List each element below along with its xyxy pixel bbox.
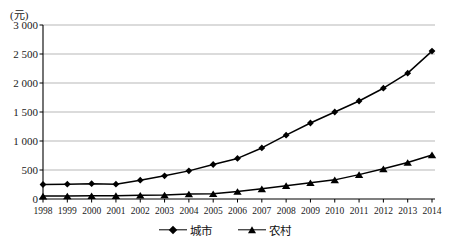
data-point-marker (258, 145, 265, 152)
data-point-marker (283, 132, 290, 139)
data-point-marker (137, 177, 144, 184)
x-tick-label: 2014 (423, 206, 442, 216)
series-line-1 (43, 51, 432, 184)
triangle-marker-icon (238, 224, 266, 236)
y-tick-label: 1 500 (2, 106, 38, 118)
legend-item-2[interactable]: 农村 (238, 222, 291, 238)
data-point-marker (428, 152, 436, 159)
x-tick-label: 1998 (34, 206, 53, 216)
x-tick-label: 2002 (131, 206, 150, 216)
data-point-marker (88, 180, 95, 187)
legend-label: 城市 (190, 222, 212, 238)
y-tick-label: 2 000 (2, 77, 38, 89)
y-tick-label: 3 000 (2, 19, 38, 31)
x-tick-label: 2008 (277, 206, 296, 216)
x-tick-label: 2011 (350, 206, 369, 216)
x-tick-label: 2013 (398, 206, 417, 216)
legend-label: 农村 (269, 222, 291, 238)
data-point-marker (64, 181, 71, 188)
y-tick-label: 500 (2, 164, 38, 176)
x-tick-label: 2000 (82, 206, 101, 216)
y-tick-label: 2 500 (2, 48, 38, 60)
y-tick-label: 0 (2, 193, 38, 205)
diamond-marker-icon (159, 224, 187, 236)
data-point-marker (113, 181, 120, 188)
chart-legend: 城市农村 (0, 222, 450, 238)
line-chart: (元) 05001 0001 5002 0002 5003 000 199819… (0, 0, 450, 244)
x-tick-label: 2005 (204, 206, 223, 216)
y-axis-tick-labels: 05001 0001 5002 0002 5003 000 (0, 0, 38, 244)
x-tick-label: 2007 (252, 206, 271, 216)
data-point-marker (40, 181, 47, 188)
data-point-marker (234, 155, 241, 162)
x-tick-label: 2001 (106, 206, 125, 216)
legend-marker-shape (169, 226, 177, 234)
x-tick-label: 2012 (374, 206, 393, 216)
x-tick-label: 2003 (155, 206, 174, 216)
data-point-marker (185, 167, 192, 174)
data-point-marker (380, 85, 387, 92)
legend-marker-shape (248, 226, 256, 233)
data-point-marker (210, 161, 217, 168)
data-point-marker (356, 98, 363, 105)
data-point-marker (161, 172, 168, 179)
x-tick-label: 1999 (58, 206, 77, 216)
x-tick-label: 2009 (301, 206, 320, 216)
legend-item-1[interactable]: 城市 (159, 222, 212, 238)
x-tick-label: 2006 (228, 206, 247, 216)
x-tick-label: 2010 (325, 206, 344, 216)
x-tick-label: 2004 (179, 206, 198, 216)
y-tick-label: 1 000 (2, 135, 38, 147)
data-point-marker (307, 120, 314, 127)
data-point-marker (331, 109, 338, 116)
